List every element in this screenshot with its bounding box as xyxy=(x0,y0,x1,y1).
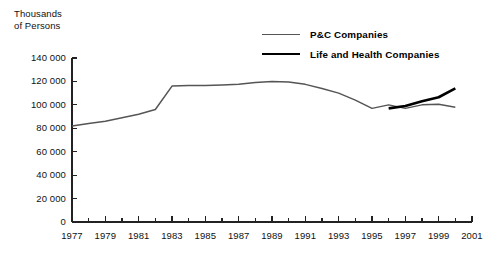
x-tick-label: 1981 xyxy=(122,230,156,241)
y-tick-label: 60 000 xyxy=(10,146,66,157)
x-tick-label: 1977 xyxy=(55,230,89,241)
y-tick-label: 140 000 xyxy=(10,52,66,63)
series-line xyxy=(72,81,455,126)
y-tick-label: 20 000 xyxy=(10,193,66,204)
x-tick-label: 1979 xyxy=(88,230,122,241)
y-tick-label: 100 000 xyxy=(10,99,66,110)
x-tick-label: 1985 xyxy=(188,230,222,241)
x-tick-label: 2001 xyxy=(455,230,489,241)
y-tick-label: 120 000 xyxy=(10,75,66,86)
data-series xyxy=(72,81,455,126)
y-tick-label: 80 000 xyxy=(10,122,66,133)
y-tick-label: 0 xyxy=(10,216,66,227)
plot-area xyxy=(0,0,494,260)
x-tick-label: 1989 xyxy=(255,230,289,241)
x-tick-label: 1993 xyxy=(322,230,356,241)
chart-container: Thousands of Persons P&C Companies Life … xyxy=(0,0,494,260)
x-tick-label: 1995 xyxy=(355,230,389,241)
axes xyxy=(72,58,472,222)
x-tick-label: 1991 xyxy=(288,230,322,241)
x-tick-label: 1987 xyxy=(222,230,256,241)
x-tick-label: 1999 xyxy=(422,230,456,241)
y-tick-label: 40 000 xyxy=(10,169,66,180)
x-tick-label: 1983 xyxy=(155,230,189,241)
x-tick-label: 1997 xyxy=(388,230,422,241)
